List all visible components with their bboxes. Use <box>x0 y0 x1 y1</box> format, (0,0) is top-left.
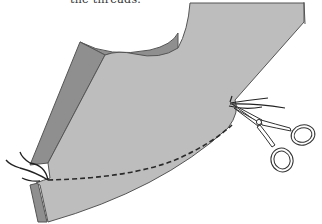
fabric-panel <box>36 3 304 222</box>
sewing-illustration <box>0 0 322 224</box>
scissors-icon <box>232 104 317 175</box>
